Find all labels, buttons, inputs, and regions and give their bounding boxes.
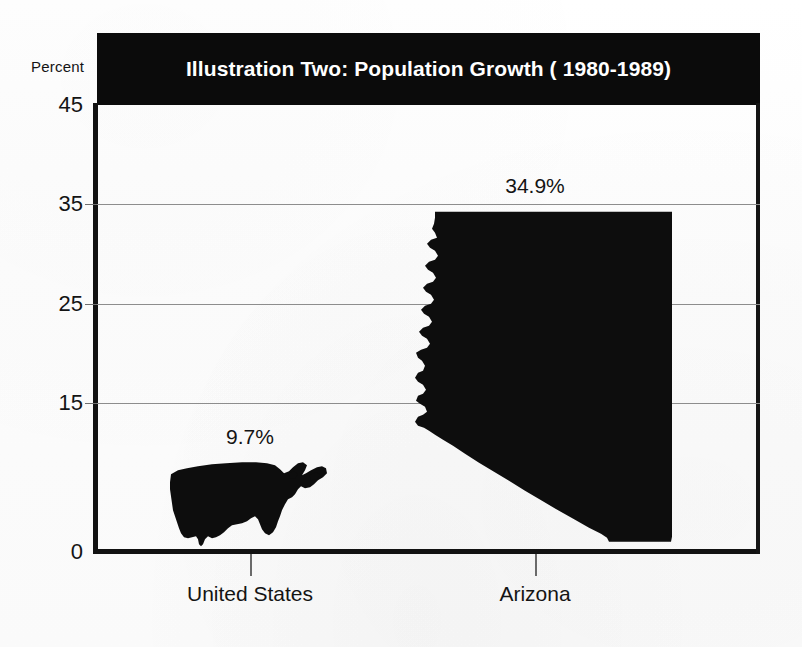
- x-axis-label-united-states: United States: [187, 582, 313, 606]
- y-tick-label-35: 35: [11, 191, 83, 217]
- y-tick-label-45: 45: [11, 92, 83, 118]
- y-tick-label-0: 0: [11, 539, 83, 565]
- x-tick-mark-0: [250, 554, 252, 576]
- plot-right-border: [756, 103, 760, 554]
- value-label-arizona: 34.9%: [505, 174, 565, 198]
- y-tick-label-25: 25: [11, 291, 83, 317]
- y-axis-line: [93, 103, 98, 554]
- x-tick-mark-1: [535, 554, 537, 576]
- y-tick-mark-35: [85, 204, 97, 205]
- y-tick-mark-25: [85, 304, 97, 305]
- chart-canvas: Illustration Two: Population Growth ( 19…: [0, 0, 802, 647]
- value-label-united-states: 9.7%: [226, 425, 274, 449]
- y-tick-mark-15: [85, 403, 97, 404]
- y-axis-tick-labels: 453525150: [0, 0, 83, 647]
- y-tick-label-15: 15: [11, 390, 83, 416]
- arizona-map-silhouette: [399, 205, 672, 552]
- usa-map-silhouette: [168, 456, 331, 552]
- x-axis-label-arizona: Arizona: [499, 582, 570, 606]
- chart-title: Illustration Two: Population Growth ( 19…: [97, 33, 760, 105]
